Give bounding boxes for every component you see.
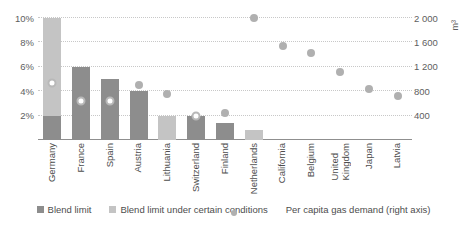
category-text: California: [277, 143, 288, 183]
legend-label: Per capita gas demand (right axis): [286, 204, 431, 215]
y-axis-left-labels: 2%4%6%8%10%: [0, 18, 34, 140]
bar[interactable]: [216, 123, 234, 140]
data-point-gas-demand[interactable]: [336, 68, 344, 76]
bar[interactable]: [158, 116, 176, 140]
bar[interactable]: [130, 91, 148, 140]
data-point-gas-demand[interactable]: [365, 85, 373, 93]
x-axis-category-label: Germany: [38, 143, 67, 201]
chart-container: 2%4%6%8%10% 4008001 2001 6002 000 m³ Ger…: [0, 0, 467, 225]
chart-column: [268, 18, 297, 140]
chart-column: [354, 18, 383, 140]
x-axis-category-label: United Kingdom: [326, 143, 355, 201]
y-axis-right-tick: 1 600: [414, 38, 438, 48]
y-axis-right-tick: 2 000: [414, 13, 438, 23]
bar-segment-blend-limit: [130, 91, 148, 140]
category-text: Latvia: [392, 143, 403, 168]
data-point-gas-demand[interactable]: [250, 14, 258, 22]
chart-column: [297, 18, 326, 140]
category-text: Switzerland: [191, 143, 202, 192]
category-text: United Kingdom: [330, 143, 351, 181]
y-axis-left-tick: 4%: [20, 86, 34, 96]
y-axis-right-tick: 800: [414, 86, 430, 96]
chart-column: [38, 18, 67, 140]
data-point-gas-demand[interactable]: [394, 92, 402, 100]
legend-square-icon: [37, 206, 44, 213]
x-axis-category-label: Lithuania: [153, 143, 182, 201]
x-axis-category-label: Spain: [96, 143, 125, 201]
category-text: Spain: [105, 143, 116, 167]
x-axis-category-labels: GermanyFranceSpainAustriaLithuaniaSwitze…: [38, 143, 412, 203]
chart-column: [326, 18, 355, 140]
y-axis-left-tick: 8%: [20, 38, 34, 48]
category-text: France: [76, 143, 87, 173]
chart-column: [182, 18, 211, 140]
category-text: Germany: [47, 143, 58, 182]
x-axis-category-label: Switzerland: [182, 143, 211, 201]
legend-item[interactable]: Blend limit: [37, 204, 92, 215]
legend-square-icon: [109, 206, 116, 213]
legend-circle-icon: [231, 210, 237, 216]
data-point-gas-demand[interactable]: [192, 111, 201, 120]
x-axis-category-label: Belgium: [297, 143, 326, 201]
data-point-gas-demand[interactable]: [48, 78, 57, 87]
y-axis-right-tick: 400: [414, 111, 430, 121]
x-axis-category-label: Netherlands: [239, 143, 268, 201]
legend-label: Blend limit: [48, 204, 92, 215]
category-text: Japan: [364, 143, 375, 169]
legend-label: Blend limit under certain conditions: [120, 204, 267, 215]
x-axis-category-label: Latvia: [383, 143, 412, 201]
data-point-gas-demand[interactable]: [77, 96, 86, 105]
bar[interactable]: [245, 130, 263, 140]
bar-segment-blend-limit: [101, 79, 119, 140]
bar-segment-blend-limit: [43, 116, 61, 140]
series-layer: [38, 18, 412, 140]
data-point-gas-demand[interactable]: [135, 81, 143, 89]
data-point-gas-demand[interactable]: [163, 90, 171, 98]
bar-segment-conditional: [245, 130, 263, 140]
chart-legend: Blend limitBlend limit under certain con…: [0, 204, 467, 215]
y-axis-left-tick: 6%: [20, 62, 34, 72]
x-axis-category-label: California: [268, 143, 297, 201]
category-text: Belgium: [306, 143, 317, 177]
x-axis-category-label: Japan: [354, 143, 383, 201]
chart-column: [96, 18, 125, 140]
data-point-gas-demand[interactable]: [105, 96, 114, 105]
data-point-gas-demand[interactable]: [279, 42, 287, 50]
bar-segment-blend-limit: [216, 123, 234, 140]
data-point-gas-demand[interactable]: [221, 109, 229, 117]
chart-column: [153, 18, 182, 140]
chart-column: [239, 18, 268, 140]
y-axis-right-unit: m³: [450, 20, 460, 31]
legend-item[interactable]: Per capita gas demand (right axis): [286, 204, 431, 215]
y-axis-right-tick: 1 200: [414, 62, 438, 72]
chart-column: [383, 18, 412, 140]
chart-column: [124, 18, 153, 140]
y-axis-left-tick: 2%: [20, 111, 34, 121]
category-text: Finland: [220, 143, 231, 174]
x-axis-category-label: Austria: [124, 143, 153, 201]
legend-item[interactable]: Blend limit under certain conditions: [109, 204, 267, 215]
bar[interactable]: [101, 79, 119, 140]
plot-area: [38, 18, 412, 140]
bar-segment-conditional: [158, 116, 176, 140]
y-axis-right-labels: 4008001 2001 6002 000: [414, 18, 458, 140]
category-text: Austria: [133, 143, 144, 173]
x-axis-category-label: France: [67, 143, 96, 201]
y-axis-left-tick: 10%: [15, 13, 34, 23]
x-axis-category-label: Finland: [211, 143, 240, 201]
category-text: Lithuania: [162, 143, 173, 182]
category-text: Netherlands: [249, 143, 260, 194]
data-point-gas-demand[interactable]: [307, 49, 315, 57]
chart-column: [211, 18, 240, 140]
chart-column: [67, 18, 96, 140]
